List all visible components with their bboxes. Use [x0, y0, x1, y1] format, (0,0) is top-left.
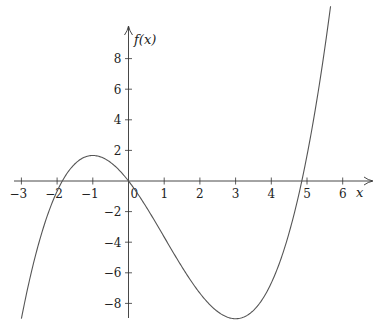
x-tick-label: −1 [81, 187, 99, 201]
x-axis [14, 177, 373, 185]
x-tick-label: −3 [10, 187, 28, 201]
y-tick-label: 2 [114, 144, 122, 158]
y-tick-label: 8 [114, 52, 122, 66]
function-curve [21, 6, 330, 319]
y-tick-label: −2 [104, 205, 122, 219]
x-axis-label: x [356, 185, 364, 200]
y-axis-label: f(x) [133, 32, 156, 47]
x-tick-label: 1 [160, 187, 168, 201]
y-tick-label: −4 [104, 236, 122, 250]
y-tick-label: 6 [114, 83, 122, 97]
x-tick-label: 5 [303, 187, 311, 201]
x-tick-label: 4 [267, 187, 275, 201]
x-tick-label: 2 [196, 187, 204, 201]
y-axis [125, 26, 133, 318]
y-tick-label: −8 [104, 297, 122, 311]
y-tick-label: −6 [104, 266, 122, 280]
curve-f-x [21, 6, 330, 319]
function-plot: −3−2−11234560−8−6−4−22468 x f(x) [0, 0, 383, 328]
x-tick-label: 6 [339, 187, 347, 201]
x-tick-label: 3 [232, 187, 240, 201]
y-tick-label: 4 [114, 113, 122, 127]
axis-ticks: −3−2−11234560−8−6−4−22468 [10, 52, 347, 311]
